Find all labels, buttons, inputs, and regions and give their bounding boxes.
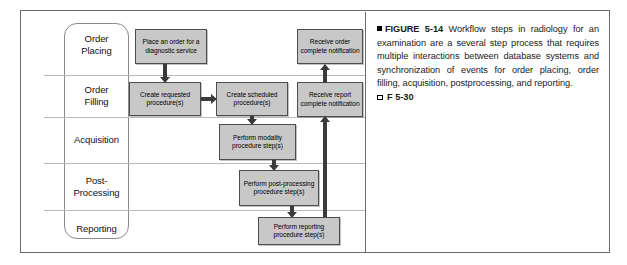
box-create-requested[interactable]: Create requested procedure(s) xyxy=(129,82,201,116)
lane-label-order-filling-line2: Filling xyxy=(65,96,128,108)
box-create-requested-label: Create requested procedure(s) xyxy=(132,91,198,107)
box-receive-order-complete[interactable]: Receive order complete notification xyxy=(297,29,363,64)
box-perform-modality-label: Perform modality procedure step(s) xyxy=(222,134,293,150)
lane-label-reporting: Reporting xyxy=(61,223,132,235)
arrow-place-order-to-create-requested xyxy=(160,64,170,83)
lane-divider-3 xyxy=(44,163,365,164)
box-perform-postprocessing-label: Perform post-processing procedure step(s… xyxy=(242,180,316,196)
lane-label-order-placing-line1: Order xyxy=(65,33,128,45)
lane-label-post-processing: Post- Processing xyxy=(61,175,132,198)
box-perform-modality[interactable]: Perform modality procedure step(s) xyxy=(219,124,296,160)
box-perform-reporting[interactable]: Perform reporting procedure step(s) xyxy=(258,217,340,245)
arrow-reporting-to-receive-report-complete xyxy=(320,116,330,217)
arrow-postprocessing-to-reporting xyxy=(287,206,297,218)
figure-caption: FIGURE 5-14 Workflow steps in radiology … xyxy=(377,23,599,91)
arrow-perform-modality-to-postprocessing xyxy=(269,160,279,171)
lane-label-reporting-text: Reporting xyxy=(61,223,132,235)
lane-label-order-placing: Order Placing xyxy=(65,33,128,56)
filled-square-bullet-icon xyxy=(377,26,382,31)
lane-label-post-processing-line2: Processing xyxy=(61,187,132,199)
lane-label-order-placing-line2: Placing xyxy=(65,45,128,57)
lane-divider-2 xyxy=(44,117,365,118)
figure-frame: Order Placing Order Filling Acquisition … xyxy=(20,10,610,253)
box-receive-order-complete-label: Receive order complete notification xyxy=(300,38,360,54)
lane-label-acquisition: Acquisition xyxy=(61,134,132,146)
box-create-scheduled-label: Create scheduled procedure(s) xyxy=(219,91,285,107)
lane-label-order-filling-line1: Order xyxy=(65,84,128,96)
box-perform-reporting-label: Perform reporting procedure step(s) xyxy=(261,223,337,239)
lane-divider-4 xyxy=(44,210,365,211)
box-create-scheduled[interactable]: Create scheduled procedure(s) xyxy=(216,82,288,116)
box-place-order[interactable]: Place an order for a diagnostic service xyxy=(135,29,207,64)
figure-caption-panel: FIGURE 5-14 Workflow steps in radiology … xyxy=(366,11,611,252)
box-receive-report-complete-label: Receive report complete notification xyxy=(300,91,360,107)
lane-label-post-processing-line1: Post- xyxy=(61,175,132,187)
figure-caption-reference-line: F 5-30 xyxy=(377,91,599,105)
workflow-diagram: Order Placing Order Filling Acquisition … xyxy=(21,11,365,252)
lane-divider-1 xyxy=(44,75,365,76)
hollow-square-bullet-icon xyxy=(377,95,383,100)
figure-caption-reference: F 5-30 xyxy=(387,92,414,102)
box-place-order-label: Place an order for a diagnostic service xyxy=(138,38,204,54)
box-perform-postprocessing[interactable]: Perform post-processing procedure step(s… xyxy=(239,170,319,206)
box-receive-report-complete[interactable]: Receive report complete notification xyxy=(297,82,363,117)
lane-label-acquisition-text: Acquisition xyxy=(61,134,132,146)
arrow-create-requested-to-create-scheduled xyxy=(201,94,217,104)
figure-caption-label: FIGURE 5-14 xyxy=(385,24,443,34)
lane-label-order-filling: Order Filling xyxy=(65,84,128,107)
arrow-create-scheduled-to-perform-modality xyxy=(247,116,257,125)
arrow-receive-report-to-receive-order-complete xyxy=(320,64,330,83)
